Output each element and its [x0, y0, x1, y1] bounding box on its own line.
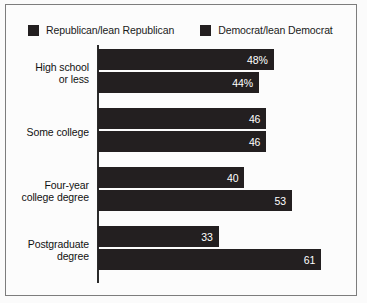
- bar-value-label: 48%: [247, 54, 274, 66]
- category-label-four-year-degree: Four-year college degree: [0, 178, 89, 203]
- bar-group-four-year-degree: Four-year college degree 40 53: [0, 163, 367, 218]
- category-label-line2: degree: [57, 250, 89, 262]
- category-label-line1: High school: [35, 60, 89, 72]
- bar-democrat-high-school[interactable]: 44%: [98, 72, 259, 93]
- bar-democrat-some-college[interactable]: 46: [98, 131, 266, 152]
- legend-item-republican[interactable]: Republican/lean Republican: [28, 24, 174, 36]
- bar-value-label: 46: [249, 113, 266, 125]
- bar-value-label: 46: [249, 136, 266, 148]
- bar-democrat-four-year-degree[interactable]: 53: [98, 190, 292, 211]
- category-label-high-school: High school or less: [0, 60, 89, 85]
- bar-group-high-school: High school or less 48% 44%: [0, 45, 367, 100]
- bar-democrat-postgraduate[interactable]: 61: [98, 249, 321, 270]
- bar-republican-high-school[interactable]: 48%: [98, 49, 274, 70]
- chart-legend: Republican/lean Republican Democrat/lean…: [28, 24, 333, 36]
- bar-value-label: 61: [304, 254, 321, 266]
- legend-label-republican: Republican/lean Republican: [46, 24, 174, 36]
- category-label-line2: or less: [59, 73, 89, 85]
- category-label-postgraduate: Postgraduate degree: [0, 237, 89, 262]
- category-label-some-college: Some college: [0, 125, 89, 138]
- bar-group-some-college: Some college 46 46: [0, 104, 367, 159]
- bar-value-label: 33: [201, 231, 218, 243]
- bar-value-label: 44%: [232, 77, 259, 89]
- bar-group-postgraduate: Postgraduate degree 33 61: [0, 222, 367, 277]
- chart-figure: Republican/lean Republican Democrat/lean…: [0, 0, 367, 303]
- category-label-line2: college degree: [22, 191, 90, 203]
- bar-republican-postgraduate[interactable]: 33: [98, 226, 219, 247]
- bar-value-label: 53: [274, 195, 291, 207]
- bar-republican-some-college[interactable]: 46: [98, 108, 266, 129]
- legend-item-democrat[interactable]: Democrat/lean Democrat: [200, 24, 333, 36]
- legend-swatch-democrat-icon: [200, 25, 211, 36]
- bar-value-label: 40: [227, 172, 244, 184]
- plot-area: High school or less 48% 44%: [0, 45, 367, 285]
- category-label-line1: Four-year: [44, 178, 89, 190]
- bar-republican-four-year-degree[interactable]: 40: [98, 167, 244, 188]
- bar-groups: High school or less 48% 44%: [0, 45, 367, 281]
- legend-swatch-republican-icon: [28, 25, 39, 36]
- category-label-line1: Postgraduate: [28, 237, 89, 249]
- legend-label-democrat: Democrat/lean Democrat: [218, 24, 333, 36]
- category-label-line1: Some college: [27, 125, 89, 137]
